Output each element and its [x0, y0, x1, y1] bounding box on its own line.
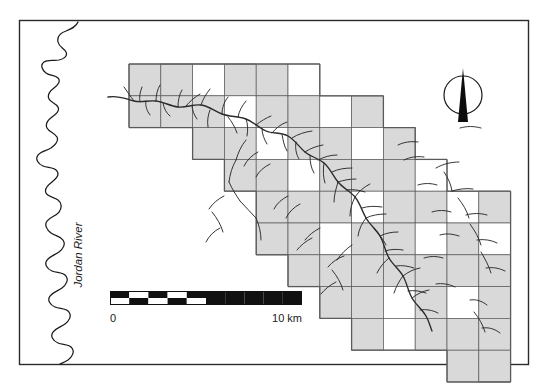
survey-tile — [320, 191, 352, 223]
survey-tile-empty — [224, 96, 256, 128]
map-figure: 0 10 km Jordan River — [0, 0, 548, 384]
survey-tile — [256, 96, 288, 128]
survey-tile-empty — [320, 96, 352, 128]
scale-bar-segment-dark — [148, 291, 167, 298]
survey-tile — [479, 255, 511, 287]
survey-tile — [256, 191, 288, 223]
scale-bar-segment-dark — [168, 298, 187, 305]
scale-bar-segment-light — [110, 298, 129, 305]
survey-tile-empty — [320, 223, 352, 255]
scale-bar-segment-dark — [283, 298, 302, 305]
survey-tile-empty — [415, 159, 447, 191]
survey-tile-empty — [352, 128, 384, 160]
survey-tile — [447, 318, 479, 350]
scale-bar-segment-dark — [225, 298, 244, 305]
survey-tile — [447, 350, 479, 382]
scale-label-max: 10 km — [272, 312, 302, 324]
survey-tile — [320, 287, 352, 319]
scale-bar-segment-dark — [244, 298, 263, 305]
scale-bar-segment-dark — [244, 291, 263, 298]
survey-tile — [479, 191, 511, 223]
scale-bar-segment-dark — [225, 291, 244, 298]
survey-tile — [352, 96, 384, 128]
survey-tile — [415, 191, 447, 223]
survey-tile-empty — [479, 223, 511, 255]
scale-bar-segment-dark — [206, 291, 225, 298]
scale-bar-segment-dark — [187, 291, 206, 298]
survey-tile-empty — [288, 159, 320, 191]
survey-tile — [415, 318, 447, 350]
survey-tile-empty — [447, 287, 479, 319]
scale-bar-segment-dark — [264, 298, 283, 305]
survey-tile — [352, 287, 384, 319]
scale-bar-segment-dark — [206, 298, 225, 305]
scale-bar-segment-light — [168, 291, 187, 298]
jordan-river-label: Jordan River — [72, 221, 84, 288]
survey-tile-empty — [383, 287, 415, 319]
scale-bar-segment-dark — [110, 291, 129, 298]
survey-tile — [161, 96, 193, 128]
survey-tile — [256, 159, 288, 191]
survey-tile — [447, 255, 479, 287]
survey-tile — [288, 96, 320, 128]
survey-tile — [415, 255, 447, 287]
survey-tile-empty — [288, 64, 320, 96]
survey-tile — [479, 350, 511, 382]
scale-bar-segment-light — [148, 298, 167, 305]
survey-tile-empty — [415, 223, 447, 255]
survey-tile — [161, 64, 193, 96]
survey-tile — [288, 191, 320, 223]
survey-tile-empty — [447, 191, 479, 223]
survey-tile — [447, 223, 479, 255]
survey-tile — [129, 64, 161, 96]
survey-tile — [352, 223, 384, 255]
scale-bar-segment-dark — [129, 298, 148, 305]
survey-tile — [288, 255, 320, 287]
survey-tile — [224, 128, 256, 160]
survey-tile — [224, 64, 256, 96]
survey-tile — [352, 159, 384, 191]
scale-label-min: 0 — [110, 312, 116, 324]
survey-tile — [383, 159, 415, 191]
survey-tile — [256, 64, 288, 96]
scale-bar-segment-dark — [283, 291, 302, 298]
map-canvas: 0 10 km Jordan River — [0, 0, 548, 384]
survey-tile — [383, 191, 415, 223]
survey-tile-empty — [383, 318, 415, 350]
scale-bar-segment-dark — [264, 291, 283, 298]
scale-bar-segment-light — [187, 298, 206, 305]
survey-tile — [193, 128, 225, 160]
survey-tile — [288, 223, 320, 255]
scale-bar-segment-light — [129, 291, 148, 298]
survey-tile — [352, 318, 384, 350]
survey-tile — [224, 159, 256, 191]
survey-tile — [383, 128, 415, 160]
survey-tile — [479, 318, 511, 350]
survey-tile — [193, 96, 225, 128]
